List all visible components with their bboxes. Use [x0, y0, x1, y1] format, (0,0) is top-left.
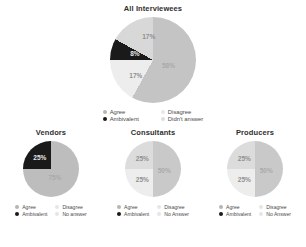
- vendors-legend-swatch-ambivalent-icon: [15, 212, 19, 216]
- consultants-legend-item-agree: Agree: [117, 204, 149, 210]
- consultants-legend-item-ambivalent: Ambivalent: [117, 211, 149, 217]
- producers-legend-swatch-agree-icon: [219, 205, 223, 209]
- legend-swatch-didnt-answer-icon: [161, 117, 165, 121]
- vendors-legend-item-disagree: Disagree: [55, 204, 86, 210]
- legend-swatch-agree-icon: [103, 110, 107, 114]
- main-pie-container: 58% 17% 8% 17%: [0, 17, 306, 103]
- vendors-legend-label-disagree: Disagree: [62, 204, 82, 210]
- consultants-chart-title: Consultants: [131, 128, 175, 137]
- consultants-legend-swatch-disagree-icon: [157, 205, 161, 209]
- sub-chart-consultants: Consultants 50% 25% 25% Agree Disagree A…: [102, 128, 204, 217]
- legend-item-disagree: Disagree: [161, 109, 204, 115]
- consultants-legend-swatch-agree-icon: [117, 205, 121, 209]
- consultants-legend-container: Agree Disagree Ambivalent No Answer: [117, 204, 189, 217]
- main-legend: Agree Disagree Ambivalent Didn't answer: [103, 109, 204, 122]
- vendors-legend-label-agree: Agree: [22, 204, 36, 210]
- producers-legend-label-disagree: Disagree: [266, 204, 286, 210]
- vendors-legend: Agree Disagree Ambivalent No answer: [15, 204, 87, 217]
- consultants-slice-label-agree: 50%: [158, 167, 171, 174]
- producers-legend-label-ambivalent: Ambivalent: [226, 211, 251, 217]
- legend-label-agree: Agree: [110, 109, 126, 115]
- consultants-legend-label-agree: Agree: [124, 204, 138, 210]
- producers-legend-swatch-disagree-icon: [259, 205, 263, 209]
- slice-label-disagree: 17%: [129, 71, 142, 78]
- pie-chart-consultants: 50% 25% 25%: [125, 141, 181, 197]
- producers-slice-label-agree: 50%: [260, 167, 273, 174]
- vendors-legend-swatch-no-answer-icon: [55, 212, 59, 216]
- producers-legend-label-no-answer: No Answer: [266, 211, 291, 217]
- vendors-chart-title: Vendors: [36, 128, 66, 137]
- producers-legend-item-disagree: Disagree: [259, 204, 291, 210]
- pie-chart-vendors: 75% 25%: [23, 141, 79, 197]
- legend-item-ambivalent: Ambivalent: [103, 116, 139, 122]
- legend-item-agree: Agree: [103, 109, 139, 115]
- vendors-legend-item-no-answer: No answer: [55, 211, 86, 217]
- consultants-legend-label-disagree: Disagree: [164, 204, 184, 210]
- legend-label-didnt-answer: Didn't answer: [168, 116, 204, 122]
- legend-label-disagree: Disagree: [168, 109, 192, 115]
- vendors-legend-label-no-answer: No answer: [62, 211, 86, 217]
- main-legend-container: Agree Disagree Ambivalent Didn't answer: [0, 109, 306, 122]
- consultants-legend-swatch-no-answer-icon: [157, 212, 161, 216]
- slice-label-didnt-answer: 17%: [142, 32, 155, 39]
- consultants-legend-item-no-answer: No Answer: [157, 211, 189, 217]
- vendors-legend-swatch-agree-icon: [15, 205, 19, 209]
- consultants-legend: Agree Disagree Ambivalent No Answer: [117, 204, 189, 217]
- legend-item-didnt-answer: Didn't answer: [161, 116, 204, 122]
- pie-chart-producers: 50% 25% 25%: [227, 141, 283, 197]
- consultants-slice-label-disagree: 25%: [136, 176, 149, 183]
- legend-swatch-disagree-icon: [161, 110, 165, 114]
- producers-legend-item-ambivalent: Ambivalent: [219, 211, 251, 217]
- main-chart-title: All Interviewees: [0, 4, 306, 13]
- pie-chart-all-interviewees: 58% 17% 8% 17%: [110, 17, 196, 103]
- slice-label-agree: 58%: [162, 62, 175, 69]
- producers-legend-swatch-ambivalent-icon: [219, 212, 223, 216]
- vendors-legend-container: Agree Disagree Ambivalent No answer: [15, 204, 87, 217]
- consultants-legend-label-ambivalent: Ambivalent: [124, 211, 149, 217]
- producers-legend-item-agree: Agree: [219, 204, 251, 210]
- producers-legend-swatch-no-answer-icon: [259, 212, 263, 216]
- vendors-legend-item-ambivalent: Ambivalent: [15, 211, 47, 217]
- sub-charts-row: Vendors 75% 25% Agree Disagree Ambivalen…: [0, 128, 306, 217]
- legend-swatch-ambivalent-icon: [103, 117, 107, 121]
- vendors-legend-item-agree: Agree: [15, 204, 47, 210]
- vendors-slice-label-ambivalent: 25%: [33, 153, 46, 160]
- producers-legend-item-no-answer: No Answer: [259, 211, 291, 217]
- sub-chart-vendors: Vendors 75% 25% Agree Disagree Ambivalen…: [0, 128, 102, 217]
- producers-chart-title: Producers: [236, 128, 274, 137]
- slice-label-ambivalent: 8%: [130, 50, 139, 57]
- consultants-legend-swatch-ambivalent-icon: [117, 212, 121, 216]
- vendors-slice-label-agree: 75%: [48, 173, 61, 180]
- consultants-legend-item-disagree: Disagree: [157, 204, 189, 210]
- consultants-slice-label-no-answer: 25%: [136, 154, 149, 161]
- producers-slice-label-disagree: 25%: [238, 176, 251, 183]
- sub-chart-producers: Producers 50% 25% 25% Agree Disagree Amb…: [204, 128, 306, 217]
- legend-label-ambivalent: Ambivalent: [110, 116, 139, 122]
- producers-legend-label-agree: Agree: [226, 204, 240, 210]
- producers-legend: Agree Disagree Ambivalent No Answer: [219, 204, 291, 217]
- producers-slice-label-no-answer: 25%: [238, 154, 251, 161]
- consultants-legend-label-no-answer: No Answer: [164, 211, 189, 217]
- vendors-legend-swatch-disagree-icon: [55, 205, 59, 209]
- main-chart-block: All Interviewees 58% 17% 8% 17% Agree Di…: [0, 4, 306, 122]
- producers-legend-container: Agree Disagree Ambivalent No Answer: [219, 204, 291, 217]
- vendors-legend-label-ambivalent: Ambivalent: [22, 211, 47, 217]
